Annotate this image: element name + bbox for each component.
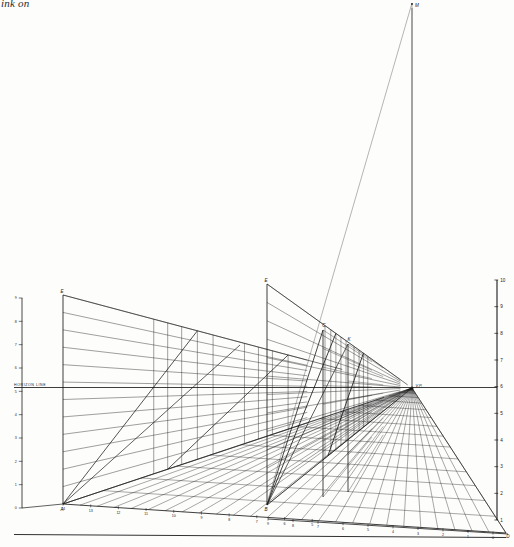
post-c-band bbox=[323, 349, 372, 371]
measuring-point-label: M bbox=[415, 3, 419, 8]
ground-line-label-right: 9 bbox=[267, 522, 269, 526]
left-scale-tick-label: 4 bbox=[15, 413, 17, 417]
right-scale-tick-label: 10 bbox=[500, 278, 506, 283]
measuring-point-marker bbox=[411, 3, 413, 5]
post-k-band bbox=[348, 426, 383, 473]
mid-wall-band bbox=[267, 302, 400, 381]
point-label-floor-corner: D bbox=[506, 534, 510, 539]
right-scale-tick-label: 4 bbox=[500, 438, 503, 443]
ground-line-label-right: 4 bbox=[392, 530, 394, 534]
left-scale-tick-label: 9 bbox=[15, 296, 17, 300]
ground-line-label-left: 6 bbox=[284, 522, 286, 526]
left-wall-band bbox=[63, 418, 307, 487]
left-scale-foot bbox=[22, 504, 63, 508]
ground-line-label-left: 7 bbox=[256, 520, 258, 524]
left-wall-band bbox=[63, 391, 307, 399]
perspective-plate: ink on 987654321010987654321HORIZON LINE… bbox=[0, 0, 514, 547]
left-wall-band bbox=[63, 312, 307, 365]
brace-left-upper bbox=[63, 345, 240, 504]
right-scale-tick-label: 9 bbox=[500, 304, 503, 309]
point-label-mid-wall-top: E bbox=[264, 278, 268, 283]
right-scale-tick-label: 5 bbox=[500, 411, 503, 416]
right-scale-tick-label: 3 bbox=[500, 464, 503, 469]
ground-line-label-left: 9 bbox=[200, 516, 202, 520]
floor-right-edge bbox=[412, 388, 506, 533]
post-c-band bbox=[323, 330, 372, 362]
left-scale-tick-label: 8 bbox=[15, 320, 17, 324]
left-scale-tick-label: 2 bbox=[15, 460, 17, 464]
ground-line-label-right: 6 bbox=[342, 527, 344, 531]
left-scale-tick-label: 1 bbox=[15, 483, 17, 487]
sheet-baseline bbox=[14, 535, 506, 538]
left-scale-tick-label: 7 bbox=[15, 343, 17, 347]
left-wall-top-edge bbox=[63, 295, 342, 369]
post-c-band bbox=[323, 386, 372, 387]
ground-line-label-left: 10 bbox=[172, 514, 176, 518]
mid-wall-band bbox=[267, 391, 400, 431]
left-wall-diagonal-b bbox=[168, 355, 288, 469]
ground-line-label-left: 11 bbox=[144, 512, 148, 516]
vanishing-point-marker bbox=[411, 387, 414, 390]
mid-wall-band bbox=[267, 394, 400, 468]
ground-line-label-left: 5 bbox=[311, 523, 313, 527]
point-label-post-k: K bbox=[347, 337, 351, 342]
floor-transversal bbox=[103, 491, 495, 517]
ground-line-label-right: 3 bbox=[417, 532, 419, 536]
left-wall-band bbox=[63, 382, 307, 386]
horizon-line-label: HORIZON LINE bbox=[14, 383, 46, 387]
left-scale-tick-label: 6 bbox=[15, 366, 17, 370]
ground-line-label-left: 13 bbox=[89, 509, 93, 513]
brace-to-post-c bbox=[267, 330, 323, 505]
right-scale-tick-label: 8 bbox=[500, 331, 503, 336]
ground-line-label-right: 5 bbox=[367, 528, 369, 532]
left-wall-diagonal-a bbox=[63, 331, 197, 504]
left-wall-band bbox=[63, 365, 307, 381]
post-k-band bbox=[348, 393, 383, 399]
point-label-left-wall-top: E bbox=[60, 289, 64, 294]
left-wall-band bbox=[63, 412, 307, 469]
lower-ground-line bbox=[268, 519, 508, 534]
right-scale-tick-label: 7 bbox=[500, 358, 503, 363]
post-c-band bbox=[323, 367, 372, 378]
ground-line-label-right: 1 bbox=[467, 535, 469, 539]
vanishing-point-label: V.P. bbox=[416, 383, 423, 388]
left-scale-tick-label: 3 bbox=[15, 436, 17, 440]
ground-line-label-left: 8 bbox=[228, 518, 230, 522]
point-label-mid-wall-base: B bbox=[264, 507, 267, 512]
right-scale-tick-label: 2 bbox=[500, 491, 503, 496]
ground-line-label-right: 0 bbox=[492, 536, 494, 540]
perspective-drawing: 987654321010987654321HORIZON LINE1413121… bbox=[0, 0, 514, 547]
point-label-left-wall-base: A bbox=[59, 507, 63, 512]
right-scale-tick-label: 1 bbox=[500, 518, 503, 523]
right-scale-tick-label: 6 bbox=[500, 384, 503, 389]
ground-line-label-left: 12 bbox=[116, 511, 120, 515]
ground-line-label-right: 8 bbox=[292, 524, 294, 528]
point-label-post-c: C bbox=[322, 323, 326, 328]
measuring-ray-left bbox=[268, 3, 412, 500]
left-scale-tick-label: 0 bbox=[15, 506, 17, 510]
ground-line-label-right: 2 bbox=[442, 533, 444, 537]
left-scale-tick-label: 5 bbox=[15, 390, 17, 394]
ground-line-label-right: 7 bbox=[317, 525, 319, 529]
